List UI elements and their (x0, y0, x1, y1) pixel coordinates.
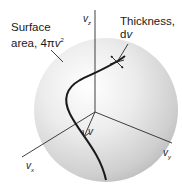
surface-area-label-line2: area, 4πv2 (11, 34, 64, 50)
thickness-label-line2: dv (120, 28, 175, 41)
surface-area-exponent: 2 (61, 37, 64, 43)
axis-vz-label: vz (83, 13, 91, 26)
surface-area-prefix: area, 4 (11, 37, 47, 49)
axis-vy-label: vy (163, 147, 171, 160)
pi-symbol: π (47, 37, 55, 49)
surface-area-label-line1: Surface (11, 21, 64, 34)
axis-vx-sub: x (31, 167, 34, 173)
thickness-label: Thickness, dv (120, 15, 175, 41)
axis-vx-label: vx (26, 160, 34, 173)
velocity-sphere (34, 38, 178, 182)
thickness-var: v (126, 28, 132, 40)
axis-vy-sub: y (168, 154, 171, 160)
axis-vz-sub: z (88, 20, 91, 26)
surface-area-label: Surface area, 4πv2 (11, 21, 64, 50)
thickness-label-line1: Thickness, (120, 15, 175, 28)
velocity-vector-label: v (88, 126, 93, 137)
